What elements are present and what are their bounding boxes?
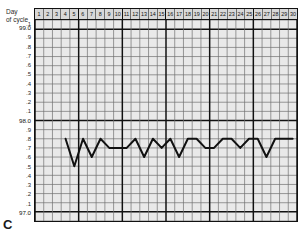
day-caption-line-1: Day bbox=[6, 8, 34, 16]
y-tick-label: .3 bbox=[26, 182, 31, 188]
y-tick-label: .6 bbox=[26, 154, 31, 160]
day-header-cell: 25 bbox=[245, 9, 254, 19]
day-header-cell: 30 bbox=[289, 9, 297, 19]
y-tick-label: .3 bbox=[26, 90, 31, 96]
y-tick-label: 99.0 bbox=[19, 25, 31, 31]
day-header-cell: 14 bbox=[149, 9, 158, 19]
day-header-cell: 5 bbox=[70, 9, 79, 19]
day-header-cell: 4 bbox=[61, 9, 70, 19]
y-tick-label: .4 bbox=[26, 173, 31, 179]
y-axis-labels: .199.0.9.8.7.6.5.4.3.2.198.0.9.8.7.6.5.4… bbox=[0, 28, 33, 222]
y-tick-label: .6 bbox=[26, 62, 31, 68]
day-header-cell: 2 bbox=[44, 9, 53, 19]
day-header-cell: 29 bbox=[280, 9, 289, 19]
y-tick-label: .7 bbox=[26, 145, 31, 151]
day-header-cell: 8 bbox=[96, 9, 105, 19]
day-header-cell: 15 bbox=[158, 9, 167, 19]
day-header-cell: 17 bbox=[175, 9, 184, 19]
plot-area bbox=[35, 20, 297, 221]
y-tick-label: .2 bbox=[26, 191, 31, 197]
y-tick-label: .1 bbox=[26, 201, 31, 207]
day-header-cell: 26 bbox=[254, 9, 263, 19]
day-header-cell: 6 bbox=[79, 9, 88, 19]
y-tick-label: .9 bbox=[26, 34, 31, 40]
day-header-cell: 24 bbox=[237, 9, 246, 19]
y-tick-label: 97.0 bbox=[19, 210, 31, 216]
day-header-cell: 1 bbox=[35, 9, 44, 19]
day-header-cell: 20 bbox=[202, 9, 211, 19]
day-header-cell: 16 bbox=[166, 9, 175, 19]
y-tick-label: .9 bbox=[26, 127, 31, 133]
day-header-cell: 11 bbox=[123, 9, 132, 19]
day-header-cell: 10 bbox=[114, 9, 123, 19]
y-tick-label: .7 bbox=[26, 53, 31, 59]
day-header-cell: 18 bbox=[184, 9, 193, 19]
day-header-cell: 21 bbox=[210, 9, 219, 19]
day-header-cell: 7 bbox=[88, 9, 97, 19]
day-header-cell: 27 bbox=[263, 9, 272, 19]
day-header-cell: 28 bbox=[272, 9, 281, 19]
day-header-cell: 13 bbox=[140, 9, 149, 19]
day-header-cell: 12 bbox=[131, 9, 140, 19]
day-header-cell: 23 bbox=[228, 9, 237, 19]
y-tick-label: .2 bbox=[26, 99, 31, 105]
day-header-cell: 3 bbox=[53, 9, 62, 19]
y-tick-label: .8 bbox=[26, 136, 31, 142]
y-tick-label: .4 bbox=[26, 81, 31, 87]
y-tick-label: .1 bbox=[26, 108, 31, 114]
y-tick-label: .5 bbox=[26, 164, 31, 170]
day-number-header: 1234567891011121314151617181920212223242… bbox=[35, 9, 297, 20]
y-tick-label: .5 bbox=[26, 71, 31, 77]
y-tick-label: .8 bbox=[26, 44, 31, 50]
chart-frame: 1234567891011121314151617181920212223242… bbox=[34, 8, 298, 222]
day-header-cell: 9 bbox=[105, 9, 114, 19]
day-header-cell: 22 bbox=[219, 9, 228, 19]
bbt-chart-panel: C Day of cycle .199.0.9.8.7.6.5.4.3.2.19… bbox=[0, 0, 302, 233]
y-tick-label: 98.0 bbox=[19, 118, 31, 124]
day-header-cell: 19 bbox=[193, 9, 202, 19]
temperature-line bbox=[35, 20, 297, 221]
